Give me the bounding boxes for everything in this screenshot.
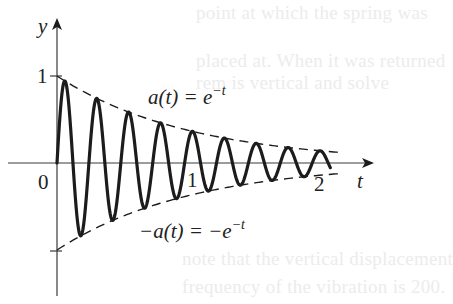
lower-annotation-main: −a(t) = −e	[139, 219, 232, 243]
upper-envelope-annotation: a(t) = e−t	[148, 83, 227, 109]
x-tick-label-2: 2	[314, 172, 325, 196]
t-axis-label: t	[357, 169, 364, 193]
upper-annotation-main: a(t) = e	[148, 85, 212, 109]
y-axis-label: y	[36, 14, 48, 38]
y-tick-label-1: 1	[37, 64, 48, 88]
lower-annotation-sup: −t	[232, 217, 246, 232]
origin-label: 0	[38, 170, 49, 194]
lower-envelope-annotation: −a(t) = −e−t	[139, 217, 246, 243]
x-tick-label-1: 1	[187, 168, 198, 192]
upper-annotation-sup: −t	[212, 83, 226, 98]
